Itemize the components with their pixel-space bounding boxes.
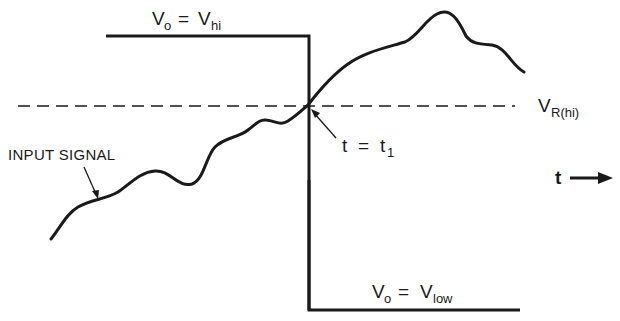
svg-text:V: V (198, 8, 211, 29)
svg-text:=: = (358, 135, 369, 156)
svg-text:=: = (178, 8, 189, 29)
input-signal-pointer-arrowhead (92, 190, 99, 199)
svg-text:t: t (342, 135, 348, 156)
svg-text:V: V (538, 95, 551, 116)
t1-pointer-arrowhead (311, 109, 320, 118)
svg-text:low: low (433, 291, 453, 306)
label-vo-hi: V o = V hi (152, 8, 221, 33)
output-high-line (106, 36, 309, 310)
svg-text:=: = (398, 281, 409, 302)
label-input-signal: INPUT SIGNAL (8, 146, 116, 163)
svg-text:t: t (380, 135, 386, 156)
svg-text:hi: hi (211, 18, 221, 33)
comparator-timing-diagram: V o = V hi V R(hi) t = t 1 INPUT SIGNAL … (0, 0, 620, 321)
time-axis-arrow: t (555, 167, 613, 188)
svg-text:V: V (420, 281, 433, 302)
svg-text:t: t (555, 167, 562, 188)
output-low-line (309, 180, 520, 310)
t1-pointer-line (314, 113, 336, 138)
svg-text:o: o (384, 291, 391, 306)
label-vo-low: V o = V low (372, 281, 453, 306)
arrow-right-icon (598, 172, 613, 184)
input-signal-curve (51, 12, 524, 239)
input-signal-pointer-line (84, 167, 96, 194)
label-t-equals-t1: t = t 1 (342, 135, 394, 160)
svg-text:R(hi): R(hi) (551, 105, 579, 120)
svg-text:o: o (164, 18, 171, 33)
svg-text:1: 1 (387, 145, 394, 160)
label-vr-hi: V R(hi) (538, 95, 579, 120)
